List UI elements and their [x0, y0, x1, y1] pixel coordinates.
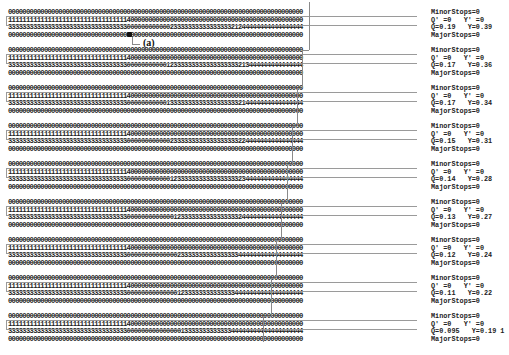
state-block-4: 0000000000000000000000000000000000000000…	[8, 123, 503, 155]
grid-row: 0000000000000000000000000000000000000000…	[8, 260, 418, 268]
stats-labels: MinorStops=0 Q' =0 Y' =0 Q=0.15 Y=0.31 M…	[431, 123, 509, 153]
grid-row: 0000000000000000000000000000000000000000…	[8, 298, 418, 306]
queue-front-line	[297, 88, 298, 126]
stats-labels: MinorStops=0 Q' =0 Y' =0 Q=0.11 Y=0.22 M…	[431, 275, 509, 305]
grid-row: 0000000000000000000000000000000000000000…	[8, 222, 418, 230]
annotation-leader-line	[132, 37, 133, 44]
state-block-9: 0000000000000000000000000000000000000000…	[8, 313, 503, 345]
queue-front-line	[302, 50, 309, 51]
stats-labels: MinorStops=0 Q' =0 Y' =0 Q=0.19 Y=0.39 M…	[431, 9, 509, 39]
major-stops-label: MajorStops=0	[431, 70, 509, 78]
lane-frame	[6, 244, 417, 254]
lane-frame	[6, 54, 417, 64]
queue-front-line	[309, 2, 310, 50]
major-stops-label: MajorStops=0	[431, 184, 509, 192]
lane-frame	[6, 206, 417, 216]
major-stops-label: MajorStops=0	[431, 222, 509, 230]
state-block-1: 0000000000000000000000000000000000000000…	[8, 9, 503, 41]
state-block-2: 0000000000000000000000000000000000000000…	[8, 47, 503, 79]
stats-labels: MinorStops=0 Q' =0 Y' =0 Q=0.12 Y=0.24 M…	[431, 237, 509, 267]
queue-front-line	[276, 240, 277, 278]
state-block-3: 0000000000000000000000000000000000000000…	[8, 85, 503, 117]
stats-labels: MinorStops=0 Q' =0 Y' =0 Q=0.095 Y=0.19 …	[431, 313, 509, 343]
state-block-5: 0000000000000000000000000000000000000000…	[8, 161, 503, 193]
grid-row: 0000000000000000000000000000000000000000…	[8, 32, 418, 40]
grid-row: 0000000000000000000000000000000000000000…	[8, 184, 418, 192]
stats-labels: MinorStops=0 Q' =0 Y' =0 Q=0.17 Y=0.36 M…	[431, 47, 509, 77]
lane-frame	[6, 130, 417, 140]
major-stops-label: MajorStops=0	[431, 298, 509, 306]
lane-frame	[6, 92, 417, 102]
queue-front-line	[263, 316, 271, 317]
major-stops-label: MajorStops=0	[431, 260, 509, 268]
grid-row: 0000000000000000000000000000000000000000…	[8, 336, 418, 344]
major-stops-label: MajorStops=0	[431, 108, 509, 116]
state-block-6: 0000000000000000000000000000000000000000…	[8, 199, 503, 231]
queue-front-line	[271, 278, 272, 316]
stats-labels: MinorStops=0 Q' =0 Y' =0 Q=0.13 Y=0.27 M…	[431, 199, 509, 229]
queue-front-line	[287, 164, 288, 202]
state-block-7: 0000000000000000000000000000000000000000…	[8, 237, 503, 269]
annotation-leader-line	[132, 44, 140, 45]
lane-frame	[6, 320, 417, 330]
grid-row: 0000000000000000000000000000000000000000…	[8, 70, 418, 78]
grid-row: 0000000000000000000000000000000000000000…	[8, 108, 418, 116]
queue-front-line	[281, 202, 282, 240]
major-stops-label: MajorStops=0	[431, 146, 509, 154]
lane-frame	[6, 282, 417, 292]
state-block-8: 0000000000000000000000000000000000000000…	[8, 275, 503, 307]
grid-row: 0000000000000000000000000000000000000000…	[8, 146, 418, 154]
major-stops-label: MajorStops=0	[431, 336, 509, 344]
stats-labels: MinorStops=0 Q' =0 Y' =0 Q=0.17 Y=0.34 M…	[431, 85, 509, 115]
queue-front-line	[263, 316, 264, 342]
queue-front-line	[292, 126, 293, 164]
queue-front-line	[302, 50, 303, 88]
stats-labels: MinorStops=0 Q' =0 Y' =0 Q=0.14 Y=0.28 M…	[431, 161, 509, 191]
lane-frame	[6, 16, 417, 26]
lane-frame	[6, 168, 417, 178]
major-stops-label: MajorStops=0	[431, 32, 509, 40]
